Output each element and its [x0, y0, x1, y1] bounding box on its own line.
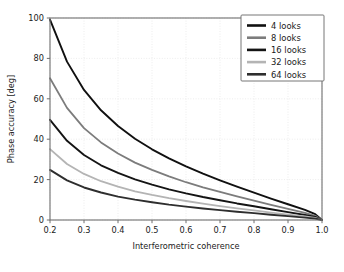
- x-tick-label: 0.8: [247, 225, 260, 235]
- y-tick-label: 100: [28, 13, 44, 23]
- x-tick-label: 0.6: [179, 225, 192, 235]
- y-tick-label: 60: [34, 94, 44, 104]
- legend-label-16-looks[interactable]: 16 looks: [271, 45, 306, 55]
- chart-figure: 0.20.30.40.50.60.70.80.91.0 020406080100…: [0, 0, 344, 272]
- x-tick-label: 0.9: [281, 225, 294, 235]
- x-tick-label: 0.7: [213, 225, 226, 235]
- x-tick-label: 1.0: [315, 225, 328, 235]
- x-tick-label: 0.5: [145, 225, 158, 235]
- x-axis-title: Interferometric coherence: [133, 241, 240, 251]
- x-tick-label: 0.2: [43, 225, 56, 235]
- y-tick-label: 40: [34, 134, 44, 144]
- legend-label-32-looks[interactable]: 32 looks: [271, 57, 306, 67]
- x-tick-label: 0.4: [111, 225, 124, 235]
- y-tick-label: 80: [34, 53, 44, 63]
- x-tick-label: 0.3: [77, 225, 90, 235]
- line-chart: 0.20.30.40.50.60.70.80.91.0 020406080100…: [0, 0, 344, 272]
- legend-label-4-looks[interactable]: 4 looks: [271, 21, 301, 31]
- y-tick-label: 20: [34, 175, 44, 185]
- legend-label-8-looks[interactable]: 8 looks: [271, 33, 301, 43]
- chart-legend[interactable]: 4 looks8 looks16 looks32 looks64 looks: [241, 15, 324, 81]
- legend-label-64-looks[interactable]: 64 looks: [271, 70, 306, 80]
- y-axis-title: Phase accuracy [deg]: [6, 75, 16, 163]
- y-tick-label: 0: [39, 215, 44, 225]
